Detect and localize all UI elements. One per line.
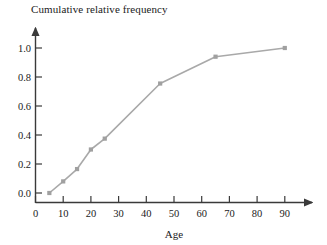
y-tick-label: 0.8 [18,72,31,83]
x-tick-label: 90 [280,208,291,219]
x-axis-title: Age [165,228,183,240]
data-point [213,55,217,59]
x-tick-label: 0 [33,208,38,219]
chart-figure: Cumulative relative frequency 0.0 0.2 0.… [0,0,327,245]
y-axis-ticks [36,48,43,193]
x-tick-label: 80 [252,208,263,219]
data-line [49,48,284,193]
y-axis-tick-labels: 0.0 0.2 0.4 0.6 0.8 1.0 [18,43,32,199]
x-tick-label: 70 [224,208,235,219]
x-tick-label: 40 [141,208,152,219]
x-tick-label: 60 [196,208,207,219]
data-point [283,46,287,50]
x-tick-label: 10 [58,208,69,219]
x-tick-label: 50 [169,208,180,219]
data-point [103,137,107,141]
x-axis-ticks [36,196,285,203]
data-markers [47,46,287,195]
y-tick-label: 0.2 [18,159,31,170]
y-tick-label: 0.4 [18,130,32,141]
x-tick-label: 20 [86,208,97,219]
data-point [47,191,51,195]
plot-area: 0.0 0.2 0.4 0.6 0.8 1.0 0 10 20 30 40 [0,0,327,245]
y-tick-label: 0.6 [18,101,31,112]
data-point [89,147,93,151]
x-tick-label: 30 [113,208,124,219]
y-tick-label: 0.0 [18,188,31,199]
data-point [75,167,79,171]
data-point [158,81,162,85]
y-tick-label: 1.0 [18,43,31,54]
data-point [61,179,65,183]
x-axis-tick-labels: 0 10 20 30 40 50 60 70 80 90 [33,208,290,219]
